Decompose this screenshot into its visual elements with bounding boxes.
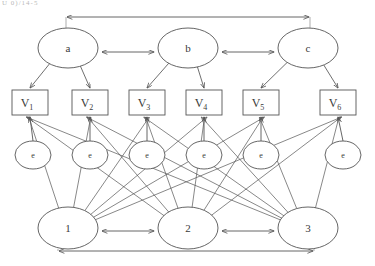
error-node-e2-label: e — [88, 151, 92, 160]
loading-arrow — [197, 66, 204, 88]
cross-paths-layer — [26, 117, 341, 221]
error-node-e5-label: e — [259, 151, 263, 160]
observed-node-n2-label: 2 — [185, 222, 191, 234]
indicator-box-V6-subscript: 6 — [337, 103, 341, 112]
observed-node-n3-label: 3 — [305, 222, 311, 234]
latent-node-a-label: a — [66, 42, 71, 54]
loading-arrow — [323, 63, 338, 88]
cross-path-arrow — [26, 117, 282, 221]
indicator-box-V2-subscript: 2 — [89, 103, 93, 112]
error-node-e1-label: e — [31, 151, 35, 160]
loading-arrow — [30, 62, 51, 88]
indicator-box-V5-subscript: 5 — [260, 103, 264, 112]
observed-node-n1-label: 1 — [65, 222, 71, 234]
latent-node-c-label: c — [306, 42, 311, 54]
diagram-canvas: abceeeeee123V1V2V3V4V5V6 — [0, 0, 375, 266]
loading-arrow — [147, 62, 170, 88]
error-node-e4-label: e — [202, 151, 206, 160]
error-node-e3-label: e — [145, 151, 149, 160]
loading-arrow — [80, 65, 90, 88]
loading-arrow — [261, 61, 289, 88]
error-arrow — [338, 117, 343, 141]
error-node-e6-label: e — [341, 151, 345, 160]
indicator-box-V3-subscript: 3 — [146, 103, 150, 112]
cross-path-arrow — [210, 117, 341, 216]
path-diagram: abceeeeee123V1V2V3V4V5V6 — [0, 0, 375, 266]
latent-node-b-label: b — [185, 42, 191, 54]
nodes-layer: abceeeeee123V1V2V3V4V5V6 — [12, 28, 361, 249]
indicator-box-V1-subscript: 1 — [29, 103, 33, 112]
indicator-box-V4-subscript: 4 — [203, 103, 207, 112]
